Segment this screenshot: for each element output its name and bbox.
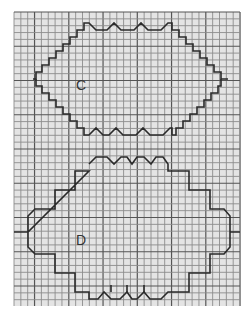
- shape-label-c: C: [76, 77, 86, 93]
- graph-paper-figure: C D: [0, 0, 252, 322]
- shape-label-d: D: [76, 232, 86, 248]
